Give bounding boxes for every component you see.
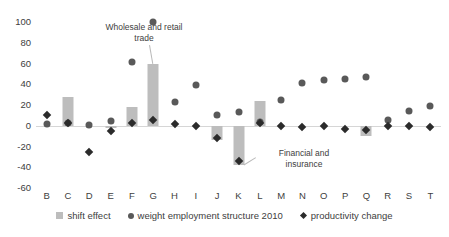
point-weight-employment-structure	[342, 76, 349, 83]
square-swatch-icon	[56, 212, 63, 219]
point-weight-employment-structure	[43, 120, 50, 127]
point-productivity-change	[85, 147, 93, 155]
y-axis-tick-label: 60	[0, 59, 31, 69]
y-axis: 100806040200-20-40-60	[0, 0, 34, 188]
point-weight-employment-structure	[235, 109, 242, 116]
y-axis-tick-label: 80	[0, 38, 31, 48]
x-axis-tick-label: L	[257, 190, 262, 202]
x-axis-tick-label: S	[406, 190, 412, 202]
point-weight-employment-structure	[214, 112, 221, 119]
plot-area	[36, 22, 441, 188]
x-axis-tick-label: P	[342, 190, 348, 202]
diamond-swatch-icon	[300, 212, 307, 219]
y-axis-tick-label: -20	[0, 142, 31, 152]
point-weight-employment-structure	[320, 77, 327, 84]
x-axis-tick-label: R	[384, 190, 391, 202]
point-productivity-change	[383, 122, 391, 130]
point-productivity-change	[298, 123, 306, 131]
legend-label-shift-effect: shift effect	[67, 210, 110, 221]
x-axis-tick-label: C	[65, 190, 72, 202]
x-axis-tick-label: T	[427, 190, 433, 202]
point-weight-employment-structure	[299, 80, 306, 87]
point-weight-employment-structure	[128, 59, 135, 66]
x-axis-tick-label: E	[107, 190, 113, 202]
point-weight-employment-structure	[192, 82, 199, 89]
x-axis-tick-label: B	[43, 190, 49, 202]
x-axis-tick-label: Q	[363, 190, 370, 202]
x-axis-tick-label: K	[235, 190, 241, 202]
y-axis-tick-label: 0	[0, 121, 31, 131]
shift-effect-chart: 100806040200-20-40-60 BCDEFGHIJKLMNOPQRS…	[0, 0, 449, 237]
point-productivity-change	[320, 122, 328, 130]
x-axis-tick-label: G	[150, 190, 157, 202]
annotation-wholesale-retail: Wholesale and retail trade	[88, 22, 200, 43]
legend-item-weight-employment-structure[interactable]: weight employment structure 2010	[128, 210, 283, 221]
point-productivity-change	[192, 122, 200, 130]
y-axis-tick-label: 100	[0, 17, 31, 27]
point-weight-employment-structure	[427, 103, 434, 110]
point-productivity-change	[405, 122, 413, 130]
chart-legend: shift effect weight employment structure…	[0, 210, 449, 221]
x-axis-tick-label: J	[215, 190, 220, 202]
x-axis-tick-label: N	[299, 190, 306, 202]
x-axis-tick-label: I	[195, 190, 198, 202]
point-weight-employment-structure	[278, 96, 285, 103]
legend-item-productivity-change[interactable]: productivity change	[300, 210, 393, 221]
x-axis-tick-label: M	[277, 190, 285, 202]
x-axis-tick-label: H	[171, 190, 178, 202]
point-weight-employment-structure	[406, 108, 413, 115]
point-weight-employment-structure	[363, 73, 370, 80]
point-weight-employment-structure	[107, 117, 114, 124]
point-weight-employment-structure	[86, 121, 93, 128]
y-axis-tick-label: -60	[0, 183, 31, 193]
point-productivity-change	[426, 123, 434, 131]
x-axis: BCDEFGHIJKLMNOPQRST	[36, 190, 441, 204]
annotation-financial-insurance: Financial and insurance	[258, 148, 350, 169]
point-productivity-change	[277, 122, 285, 130]
x-axis-tick-label: D	[86, 190, 93, 202]
x-axis-tick-label: F	[129, 190, 135, 202]
legend-item-shift-effect[interactable]: shift effect	[56, 210, 110, 221]
point-productivity-change	[106, 127, 114, 135]
y-axis-tick-label: -40	[0, 162, 31, 172]
y-axis-tick-label: 20	[0, 100, 31, 110]
point-weight-employment-structure	[171, 98, 178, 105]
legend-label-weight-employment-structure: weight employment structure 2010	[138, 210, 283, 221]
circle-swatch-icon	[128, 213, 134, 219]
point-productivity-change	[42, 111, 50, 119]
y-axis-tick-label: 40	[0, 79, 31, 89]
legend-label-productivity-change: productivity change	[311, 210, 393, 221]
x-axis-tick-label: O	[320, 190, 327, 202]
